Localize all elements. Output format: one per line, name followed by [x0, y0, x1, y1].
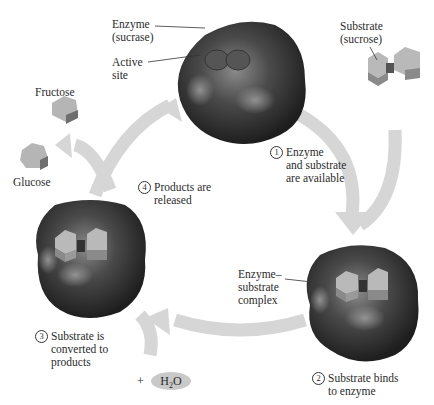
step-4-label: 4Products are released [138, 181, 211, 207]
step-3-label: 3Substrate is converted to products [35, 330, 108, 369]
arrow-substrate-in [360, 130, 395, 225]
enzyme-label: Enzyme(sucrase) [112, 18, 154, 44]
enzyme-cycle-diagram: Enzyme(sucrase) Activesite Substrate(suc… [0, 0, 434, 405]
arrow-2-to-3 [175, 320, 305, 330]
sucrose-molecule [368, 47, 420, 86]
glucose-label: Glucose [13, 176, 51, 189]
water-plus: + [137, 374, 144, 389]
complex-label: Enzyme–substratecomplex [238, 268, 281, 307]
enzyme-top [178, 22, 306, 144]
enzyme-bottom-right [307, 245, 419, 361]
water-badge: H2O [151, 372, 191, 390]
enzyme-left [36, 200, 146, 318]
arrow-products-out [75, 145, 110, 190]
substrate-label: Substrate(sucrose) [340, 20, 383, 46]
active-site-label: Activesite [112, 56, 143, 82]
glucose-molecule [20, 143, 48, 170]
step-2-label: 2Substrate binds to enzyme [312, 372, 399, 398]
fructose-molecule [52, 96, 78, 124]
step-1-label: 1Enzyme and substrate are available [270, 146, 346, 185]
fructose-label: Fructose [35, 86, 75, 99]
